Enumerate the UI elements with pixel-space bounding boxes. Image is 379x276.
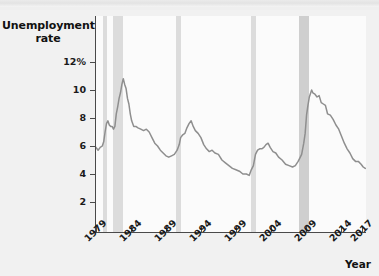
y-axis-tick-label: 6 <box>40 140 86 151</box>
x-axis-title: Year <box>345 258 371 270</box>
y-axis-tick <box>90 62 96 63</box>
series-line-unemployment-rate <box>96 16 366 232</box>
y-axis-tick <box>90 146 96 147</box>
y-axis-tick-label: 12% <box>40 56 86 67</box>
y-axis-tick <box>90 202 96 203</box>
y-axis-tick-label: 10 <box>40 84 86 95</box>
y-axis-tick <box>90 118 96 119</box>
y-axis-tick <box>90 174 96 175</box>
chart-figure: Unemploymentrate 12%108642 Year 19791984… <box>0 0 379 276</box>
y-axis-tick-label: 4 <box>40 168 86 179</box>
y-axis-tick <box>90 90 96 91</box>
y-axis-tick-label: 2 <box>40 196 86 207</box>
plot-area <box>96 16 366 232</box>
y-axis-tick-label: 8 <box>40 112 86 123</box>
series-path <box>96 79 365 176</box>
y-axis-line <box>95 16 96 233</box>
